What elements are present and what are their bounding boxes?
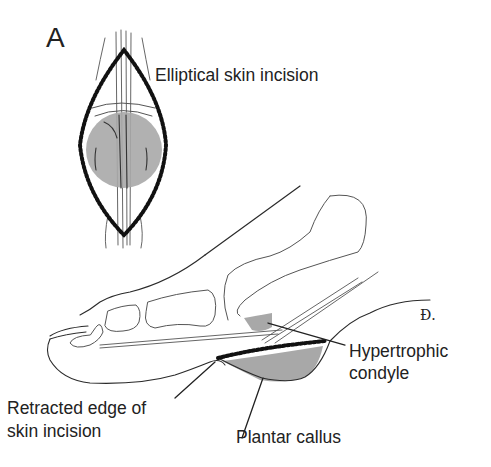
label-plantar-callus: Plantar callus <box>236 426 341 448</box>
panel-label: A <box>46 22 65 54</box>
label-hypertrophic-condyle-line1: Hypertrophic <box>349 340 448 362</box>
label-retracted-edge-line1: Retracted edge of <box>7 397 146 419</box>
label-retracted-edge-line2: skin incision <box>7 420 101 442</box>
label-elliptical-skin-incision: Elliptical skin incision <box>155 64 318 86</box>
artist-signature: Ɖ. <box>420 304 436 326</box>
label-hypertrophic-condyle-line2: condyle <box>349 362 409 384</box>
